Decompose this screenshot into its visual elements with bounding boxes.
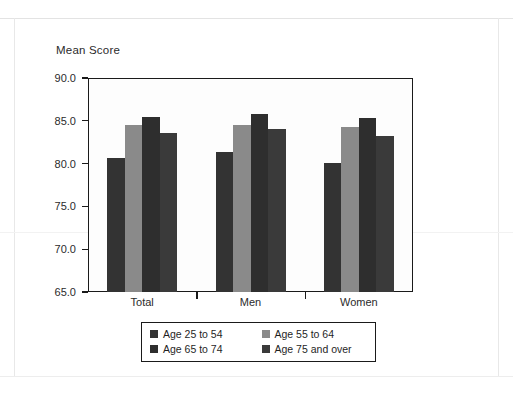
- bar-series-layer: [88, 78, 413, 292]
- page-frame-top-rule: [0, 18, 513, 19]
- legend-item-3: Age 75 and over: [262, 343, 368, 355]
- x-axis-label-total: Total: [131, 296, 154, 308]
- legend-swatch-icon: [262, 345, 270, 353]
- legend-item-1: Age 55 to 64: [262, 328, 368, 340]
- x-axis-label-men: Men: [240, 296, 261, 308]
- bar-men-series-1: [233, 125, 251, 292]
- y-axis-tick-label: 75.0: [0, 200, 76, 212]
- bar-women-series-0: [324, 163, 342, 292]
- bar-men-series-2: [251, 114, 269, 292]
- bar-total-series-1: [125, 125, 143, 292]
- page-frame-bottom-rule: [0, 376, 513, 377]
- y-axis-tick-label: 80.0: [0, 158, 76, 170]
- bar-men-series-0: [216, 152, 234, 292]
- legend-item-2: Age 65 to 74: [150, 343, 256, 355]
- bar-total-series-2: [142, 117, 160, 292]
- x-axis-label-women: Women: [340, 296, 378, 308]
- page-frame-right-rule: [498, 18, 499, 376]
- x-axis-tick: [305, 292, 306, 299]
- legend-label: Age 75 and over: [275, 343, 352, 355]
- y-axis-tick-label: 70.0: [0, 243, 76, 255]
- y-axis-title: Mean Score: [56, 44, 120, 56]
- legend-swatch-icon: [150, 345, 158, 353]
- legend-swatch-icon: [262, 330, 270, 338]
- bar-total-series-0: [107, 158, 125, 292]
- bar-women-series-1: [341, 127, 359, 292]
- x-axis-tick: [196, 292, 197, 299]
- legend-label: Age 55 to 64: [275, 328, 335, 340]
- bar-women-series-2: [359, 118, 377, 292]
- legend-swatch-icon: [150, 330, 158, 338]
- y-axis-tick-label: 65.0: [0, 286, 76, 298]
- chart-legend: Age 25 to 54Age 55 to 64Age 65 to 74Age …: [141, 322, 376, 362]
- legend-item-0: Age 25 to 54: [150, 328, 256, 340]
- bar-total-series-3: [160, 133, 178, 292]
- y-axis-tick-label: 85.0: [0, 115, 76, 127]
- chart-page: Mean Score 65.070.075.080.085.090.0 Tota…: [0, 0, 513, 394]
- legend-label: Age 25 to 54: [163, 328, 223, 340]
- legend-label: Age 65 to 74: [163, 343, 223, 355]
- y-axis-tick-label: 90.0: [0, 72, 76, 84]
- bar-men-series-3: [268, 129, 286, 292]
- bar-women-series-3: [376, 136, 394, 292]
